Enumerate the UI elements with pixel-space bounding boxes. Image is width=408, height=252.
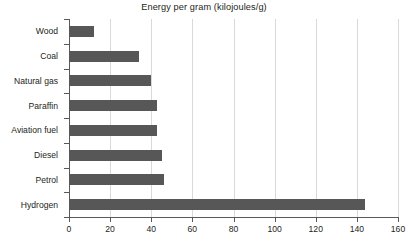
bar xyxy=(69,51,139,62)
x-axis-label: 120 xyxy=(309,224,323,234)
y-axis-tick xyxy=(64,168,69,169)
x-axis-tick xyxy=(234,218,235,222)
y-axis-label: Coal xyxy=(40,51,58,61)
x-axis-tick xyxy=(357,218,358,222)
x-axis-tick xyxy=(110,218,111,222)
bar xyxy=(69,150,162,161)
y-axis-label: Petrol xyxy=(36,175,58,185)
y-axis-label: Wood xyxy=(36,26,58,36)
y-axis-tick xyxy=(64,118,69,119)
bar xyxy=(69,26,94,37)
bar-chart: Energy per gram (kilojoules/g) WoodCoalN… xyxy=(0,0,408,252)
y-axis-tick xyxy=(64,143,69,144)
x-axis-label: 160 xyxy=(391,224,405,234)
x-axis-label: 80 xyxy=(229,224,239,234)
gridline xyxy=(316,19,317,217)
gridline xyxy=(192,19,193,217)
y-axis-tick xyxy=(64,69,69,70)
x-axis-label: 40 xyxy=(146,224,156,234)
y-axis-tick xyxy=(64,93,69,94)
gridline xyxy=(398,19,399,217)
x-axis-label: 20 xyxy=(105,224,115,234)
y-axis-label: Natural gas xyxy=(14,76,58,86)
gridline xyxy=(151,19,152,217)
gridline xyxy=(110,19,111,217)
y-axis-tick xyxy=(64,192,69,193)
x-axis-tick xyxy=(316,218,317,222)
bar xyxy=(69,199,365,210)
plot-area xyxy=(69,19,398,217)
gridline xyxy=(234,19,235,217)
x-axis-tick xyxy=(398,218,399,222)
x-axis-label: 100 xyxy=(267,224,281,234)
x-axis-tick xyxy=(275,218,276,222)
bar xyxy=(69,174,164,185)
bar xyxy=(69,125,157,136)
x-axis-tick xyxy=(151,218,152,222)
bar xyxy=(69,100,157,111)
y-axis-label: Paraffin xyxy=(29,101,58,111)
bar xyxy=(69,75,151,86)
x-axis-label: 60 xyxy=(188,224,198,234)
y-axis-tick xyxy=(64,19,69,20)
gridline xyxy=(357,19,358,217)
x-axis-label: 140 xyxy=(350,224,364,234)
x-axis-tick xyxy=(192,218,193,222)
x-axis-label: 0 xyxy=(67,224,72,234)
y-axis-label: Diesel xyxy=(34,150,58,160)
x-axis-tick xyxy=(69,218,70,222)
y-axis-label: Aviation fuel xyxy=(11,125,58,135)
gridline xyxy=(275,19,276,217)
y-axis-label: Hydrogen xyxy=(21,200,58,210)
y-axis-tick xyxy=(64,44,69,45)
chart-title: Energy per gram (kilojoules/g) xyxy=(0,2,408,12)
